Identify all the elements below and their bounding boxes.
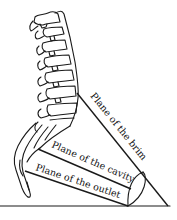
- label-plane-of-brim: Plane of the brim: [88, 90, 149, 162]
- pelvic-planes-diagram: Plane of the brim Plane of the cavity Pl…: [0, 0, 177, 220]
- spine-illustration: [30, 11, 78, 132]
- sacrum-illustration: [14, 123, 70, 197]
